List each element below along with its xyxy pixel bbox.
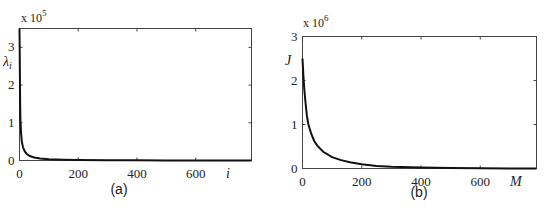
panel-caption-b: (b): [410, 184, 427, 200]
y-tick-label: 1: [291, 117, 298, 132]
y-tick-label: 2: [291, 73, 298, 88]
x-tick-label: 0: [16, 166, 23, 181]
y-tick-label: 3: [8, 39, 15, 54]
panel-caption-a: (a): [110, 181, 127, 197]
x-axis-label-a: i: [226, 166, 230, 181]
y-tick-label: 1: [8, 115, 15, 130]
y-tick-label: 2: [8, 77, 15, 92]
figure: x 105 0123 0200400600 λi i (a) x 106 012…: [0, 0, 548, 213]
x-ticks-a: 0200400600: [16, 29, 205, 181]
x-ticks-b: 0200400600: [299, 37, 490, 189]
y-axis-label-a: λi: [2, 54, 12, 71]
j-curve: [303, 59, 537, 169]
plot-frame-a: [20, 29, 252, 161]
y-ticks-a: 0123: [8, 39, 252, 167]
y-tick-label: 3: [291, 29, 298, 44]
y-axis-label-b: J: [285, 53, 292, 68]
chart-panel-a: x 105 0123 0200400600 λi i (a): [2, 8, 252, 197]
plot-frame-b: [303, 37, 537, 169]
x-tick-label: 200: [352, 174, 372, 189]
y-multiplier-b: x 106: [303, 13, 329, 30]
x-tick-label: 200: [68, 166, 88, 181]
y-multiplier-a: x 105: [21, 8, 47, 25]
y-tick-label: 0: [291, 161, 298, 176]
x-tick-label: 0: [299, 174, 306, 189]
x-tick-label: 600: [470, 174, 490, 189]
x-tick-label: 600: [186, 166, 206, 181]
y-tick-label: 0: [8, 153, 15, 168]
chart-panel-b: x 106 0123 0200400600 J M (b): [285, 13, 537, 200]
x-tick-label: 400: [127, 166, 147, 181]
x-axis-label-b: M: [509, 174, 523, 189]
eigenvalue-curve: [20, 29, 252, 161]
